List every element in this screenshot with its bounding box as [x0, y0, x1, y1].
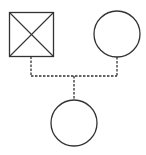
pedigree-diagram — [0, 0, 146, 155]
child-circle — [51, 100, 97, 146]
mother-circle — [94, 11, 140, 57]
relationship-lines — [31, 57, 117, 101]
father-symbol — [10, 13, 54, 57]
